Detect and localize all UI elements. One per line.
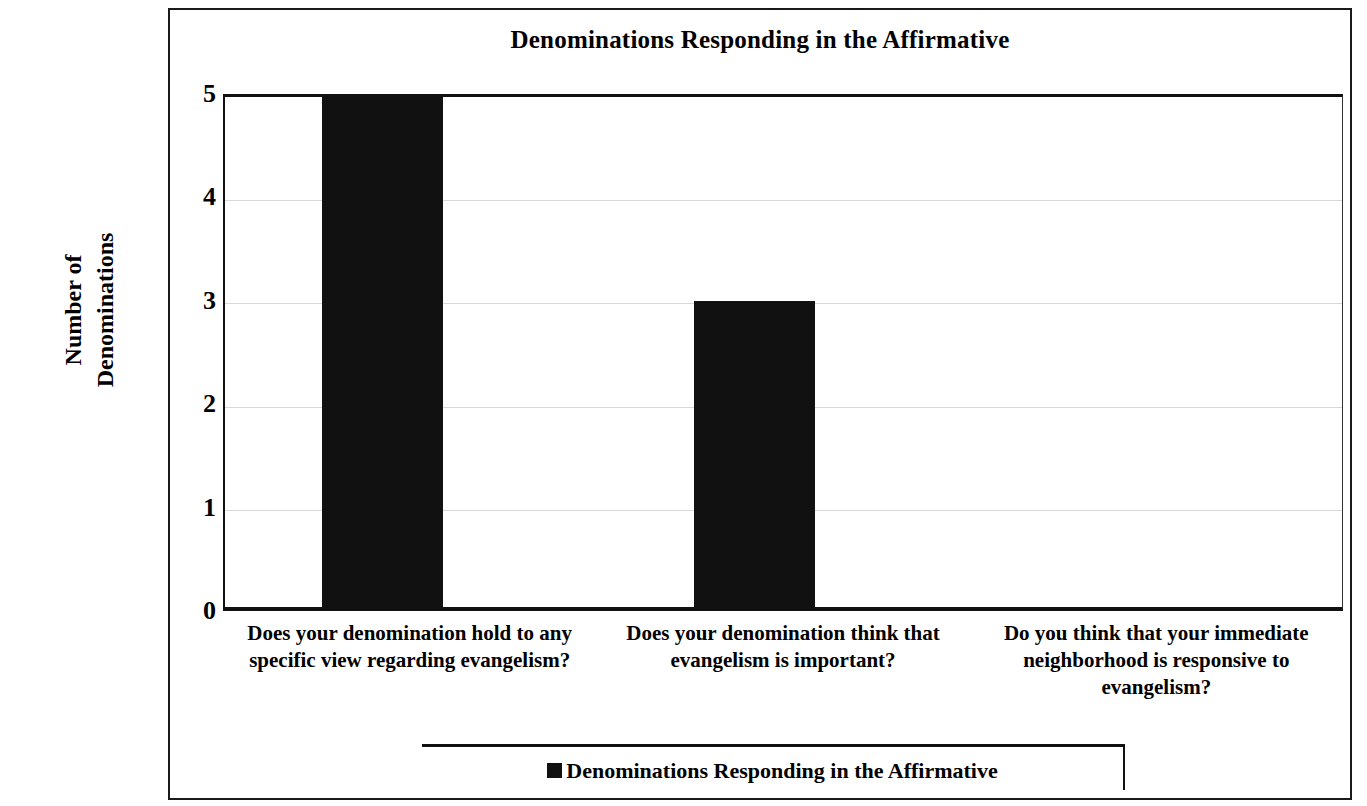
bars-layer xyxy=(225,97,1342,607)
legend-entry[interactable]: Denominations Responding in the Affirmat… xyxy=(547,758,997,784)
x-axis-category-labels: Does your denomination hold to any speci… xyxy=(223,620,1343,730)
y-axis-tick-label: 4 xyxy=(178,184,216,210)
y-axis-tick-label: 1 xyxy=(178,495,216,521)
y-axis-title-line-1: Number of xyxy=(58,255,90,366)
x-axis-category-label: Do you think that your immediate neighbo… xyxy=(970,620,1343,730)
y-axis-title-line-2: Denominations xyxy=(90,233,122,388)
legend-swatch-icon xyxy=(547,763,562,778)
bar[interactable] xyxy=(694,301,815,607)
plot-area xyxy=(223,94,1343,611)
bar[interactable] xyxy=(322,97,443,607)
y-axis-tick-labels: 5 4 3 2 1 0 xyxy=(178,94,216,611)
y-axis-tick-label: 2 xyxy=(178,391,216,417)
chart-title: Denominations Responding in the Affirmat… xyxy=(168,26,1352,54)
chart-legend: Denominations Responding in the Affirmat… xyxy=(422,744,1125,790)
y-axis-tick-label: 0 xyxy=(178,598,216,624)
y-axis-tick-label: 5 xyxy=(178,81,216,107)
y-axis-title: Number of Denominations xyxy=(10,160,170,460)
x-axis-category-label: Does your denomination think that evange… xyxy=(596,620,969,730)
y-axis-tick-label: 3 xyxy=(178,288,216,314)
legend-entry-label: Denominations Responding in the Affirmat… xyxy=(566,758,997,784)
x-axis-category-label: Does your denomination hold to any speci… xyxy=(223,620,596,730)
